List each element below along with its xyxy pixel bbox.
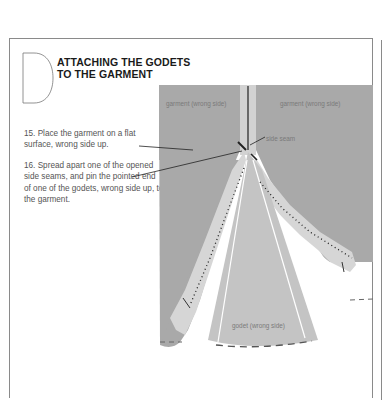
label-side-seam: side seam (266, 135, 295, 142)
label-garment-left: garment (wrong side) (166, 100, 226, 107)
label-garment-right: garment (wrong side) (280, 100, 340, 107)
label-godet: godet (wrong side) (232, 322, 285, 329)
